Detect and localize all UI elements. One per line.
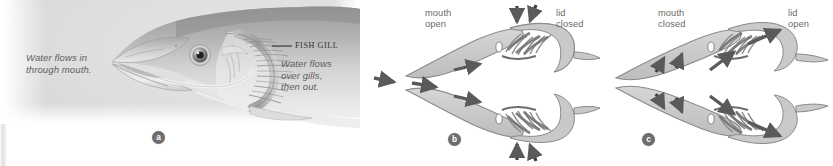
panel-a-fish-head: FISH GILL Water flows in through mouth. … [0,0,360,166]
water-inflow-arrows [374,78,436,87]
panel-b-mouth-label: mouth open [425,8,451,31]
panel-label-c: c [642,133,655,146]
water-in-line1: Water flows in [26,52,92,64]
panel-c-exhalation: mouth closed lid open c [598,0,833,166]
water-in-label: Water flows in through mouth. [26,52,92,75]
water-out-line1: Water flows [281,58,332,70]
panel-c-mouth-line1: mouth [658,8,685,19]
fish-gill-figure: FISH GILL Water flows in through mouth. … [0,0,833,166]
panel-b-inhalation: mouth open lid closed b [360,0,603,166]
panel-label-a: a [152,131,165,144]
water-out-line2: over gills, [281,70,332,82]
panel-c-lid-line2: open [788,19,809,30]
panel-label-b: b [448,133,461,146]
panel-b-lid-line2: closed [556,19,583,30]
fish-gill-callout-label: FISH GILL [295,41,338,50]
panel-b-lid-label: lid closed [556,8,583,31]
panel-b-lid-line1: lid [556,8,583,19]
panel-c-mouth-line2: closed [658,19,685,30]
water-out-line3: then out. [281,81,332,93]
lid-closed-arrows-top [517,5,536,22]
water-in-line2: through mouth. [26,64,92,76]
panel-b-mouth-line1: mouth [425,8,451,19]
panel-b-mouth-line2: open [425,19,451,30]
lid-closed-arrows-bottom [517,144,536,161]
panel-c-lid-line1: lid [788,8,809,19]
panel-c-mouth-label: mouth closed [658,8,685,31]
water-out-label: Water flows over gills, then out. [281,58,332,93]
panel-c-lid-label: lid open [788,8,809,31]
